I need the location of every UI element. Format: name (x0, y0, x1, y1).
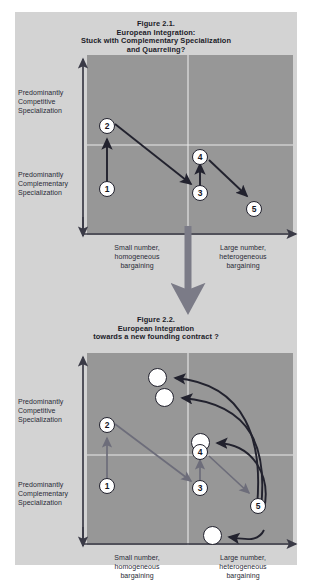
figure-2-2-outcome-circle-1[interactable] (148, 368, 167, 387)
figure-2-2-arrow-2-to-3 (115, 424, 191, 481)
figure-2-2-node-2[interactable]: 2 (99, 417, 115, 433)
figure-page: Figure 2.1. European Integration: Stuck … (0, 0, 312, 582)
figure-card: Figure 2.1. European Integration: Stuck … (15, 12, 297, 565)
figure-2-2-curve-5-to-outcome-4 (229, 530, 264, 539)
figure-2-2-arrow-4-to-5 (209, 456, 249, 493)
figure-2-2-vector-layer (15, 12, 297, 565)
figure-2-2-node-4[interactable]: 4 (192, 444, 208, 460)
figure-2-2-node-1[interactable]: 1 (99, 478, 115, 494)
figure-2-2-outcome-circle-4[interactable] (203, 526, 222, 545)
figure-2-2-node-3[interactable]: 3 (192, 480, 208, 496)
figure-2-2-outcome-circle-2[interactable] (155, 388, 174, 407)
figure-2-2-node-5[interactable]: 5 (250, 498, 266, 514)
